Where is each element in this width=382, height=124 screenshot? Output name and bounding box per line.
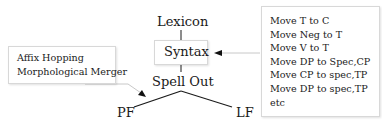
syntax-label: Syntax xyxy=(164,45,209,59)
arrowhead-down-right-icon xyxy=(138,90,146,97)
pf-operation-item: Morphological Merger xyxy=(17,65,127,79)
pf-operations-box: Affix Hopping Morphological Merger xyxy=(8,46,116,84)
pf-label: PF xyxy=(117,106,135,120)
arrowhead-left-icon xyxy=(214,50,222,56)
syntax-operation-item: Move DP to Spec,CP xyxy=(270,55,370,69)
syntax-operations-box: Move T to C Move Neg to T Move V to T Mo… xyxy=(261,6,380,117)
syntax-operation-item: Move Neg to T xyxy=(270,28,370,42)
syntax-operation-item: etc xyxy=(270,96,370,110)
syntax-operation-item: Move V to T xyxy=(270,41,370,55)
lf-branch-line xyxy=(181,91,232,107)
syntax-operation-item: Move DP to spec,TP xyxy=(270,82,370,96)
pf-operation-item: Affix Hopping xyxy=(17,51,127,65)
lexicon-label: Lexicon xyxy=(157,15,208,29)
pf-ops-arrow-line xyxy=(85,84,141,93)
lf-label: LF xyxy=(236,106,254,120)
syntax-operation-item: Move CP to spec,TP xyxy=(270,68,370,82)
spell-out-label: Spell Out xyxy=(152,75,214,89)
syntax-operation-item: Move T to C xyxy=(270,14,370,28)
syntax-box: Syntax xyxy=(154,40,208,65)
